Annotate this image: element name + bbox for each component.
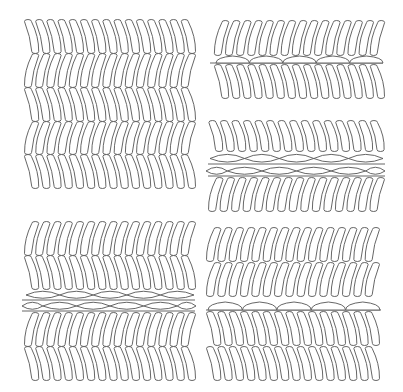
lying-molecule (22, 302, 43, 309)
molecule-row (24, 54, 195, 88)
lying-molecule (160, 291, 194, 298)
lying-molecule (110, 302, 144, 309)
lying-molecule (76, 302, 110, 309)
lying-molecule (262, 167, 297, 174)
lying-molecule (316, 56, 349, 63)
molecule-row (24, 256, 195, 290)
lying-molecule (283, 56, 316, 63)
lying-molecule (331, 167, 366, 174)
lying-molecule (366, 167, 385, 174)
molecule-row (207, 263, 380, 297)
lying-molecule (311, 302, 345, 310)
lying-molecule (127, 291, 161, 298)
lying-molecule (346, 302, 380, 310)
molecule-row (214, 65, 384, 99)
molecule-row (24, 20, 195, 54)
banana-molecule (209, 121, 223, 152)
smectic-layer-diagram (0, 0, 403, 392)
lying-molecule (350, 56, 383, 63)
molecule-row (207, 312, 380, 346)
molecule-row (207, 347, 380, 381)
panel-bottom-left (22, 222, 196, 381)
molecule-row (24, 155, 195, 189)
lying-molecule (249, 56, 282, 63)
lying-molecule (210, 154, 245, 162)
lying-molecule (297, 167, 332, 174)
lying-molecule-layer (206, 167, 385, 174)
molecule-row (209, 121, 384, 152)
lying-molecule-layer (208, 302, 380, 310)
lying-molecule (208, 302, 242, 310)
molecule-row (214, 21, 384, 56)
molecule-row (209, 178, 385, 212)
lying-molecule (144, 302, 178, 309)
lying-molecule (177, 302, 196, 309)
lying-molecule (277, 302, 311, 310)
molecule-row (24, 88, 195, 122)
lying-molecule-layer (210, 154, 383, 162)
lying-molecule (26, 291, 60, 298)
molecule-row (24, 347, 195, 381)
molecule-row (207, 228, 380, 262)
lying-molecule (348, 154, 383, 162)
panel-top-left (24, 20, 195, 189)
lying-molecule (314, 154, 349, 162)
panel-middle-right (206, 121, 385, 212)
lying-molecule (279, 154, 314, 162)
molecule-row (24, 313, 195, 347)
molecule-row (25, 122, 196, 155)
lying-molecule (216, 56, 249, 63)
lying-molecule (245, 154, 280, 162)
lying-molecule-layer (22, 302, 196, 309)
lying-molecule (227, 167, 262, 174)
lying-molecule (206, 167, 227, 174)
lying-molecule-layer (216, 56, 383, 63)
lying-molecule (242, 302, 276, 310)
lying-molecule (60, 291, 94, 298)
lying-molecule-layer (26, 291, 194, 298)
lying-molecule (93, 291, 127, 298)
molecule-row (24, 222, 195, 256)
panel-bottom-right (206, 228, 381, 381)
lying-molecule (43, 302, 77, 309)
panel-top-right (210, 21, 385, 99)
